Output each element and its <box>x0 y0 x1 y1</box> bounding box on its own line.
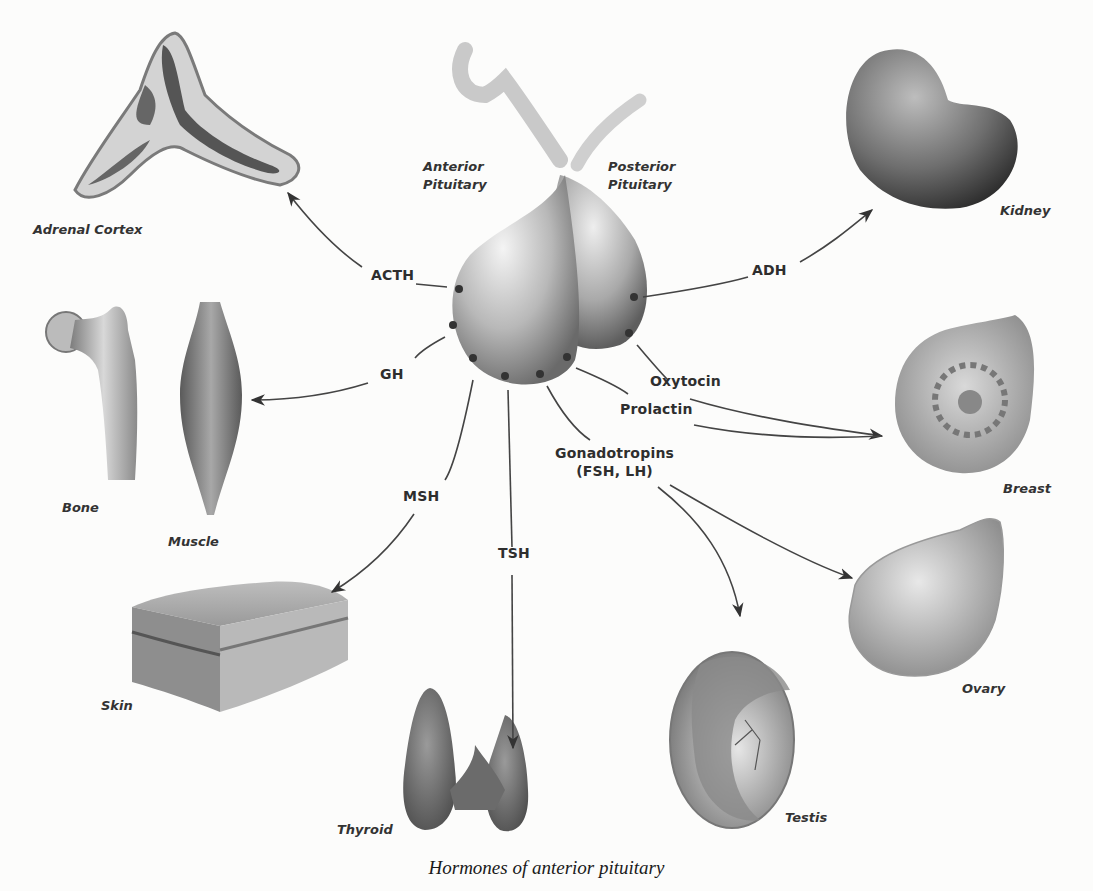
organ-label-thyroid: Thyroid <box>337 822 393 837</box>
hormone-label-tsh: TSH <box>498 545 530 561</box>
organ-label-adrenal-cortex: Adrenal Cortex <box>33 222 143 237</box>
adrenal-cortex-illustration <box>75 33 299 197</box>
hormone-label-oxytocin: Oxytocin <box>650 373 721 389</box>
anterior-pituitary-illustration <box>452 175 579 384</box>
anterior-label-line1: Anterior <box>423 158 487 176</box>
posterior-label-line2: Pituitary <box>608 176 675 194</box>
thyroid-illustration <box>403 688 528 831</box>
anterior-pituitary-label: Anterior Pituitary <box>423 158 487 194</box>
organ-label-ovary: Ovary <box>962 681 1005 696</box>
posterior-pituitary-label: Posterior Pituitary <box>608 158 675 194</box>
hormone-label-acth: ACTH <box>371 267 414 283</box>
hormone-label-adh: ADH <box>752 262 787 278</box>
testis-illustration <box>670 652 794 828</box>
posterior-label-line1: Posterior <box>608 158 675 176</box>
hormone-label-prolactin: Prolactin <box>620 401 693 417</box>
pituitary-stalk <box>460 50 640 165</box>
hormone-label-gh: GH <box>380 366 404 382</box>
organ-label-muscle: Muscle <box>168 534 219 549</box>
kidney-illustration <box>846 49 1018 208</box>
organ-label-testis: Testis <box>785 810 827 825</box>
organ-label-breast: Breast <box>1003 481 1051 496</box>
figure-caption: Hormones of anterior pituitary <box>0 857 1093 879</box>
pituitary-hormones-figure: Anterior Pituitary Posterior Pituitary A… <box>0 0 1093 891</box>
organ-label-skin: Skin <box>101 698 133 713</box>
gonadotropins-line2: (FSH, LH) <box>555 462 674 480</box>
skin-illustration <box>132 582 348 712</box>
diagram-illustration <box>0 0 1093 891</box>
breast-illustration <box>895 315 1034 473</box>
muscle-illustration <box>180 302 242 515</box>
hormone-label-gonadotropins: Gonadotropins (FSH, LH) <box>555 444 674 480</box>
anterior-label-line2: Pituitary <box>423 176 487 194</box>
organ-label-bone: Bone <box>62 500 99 515</box>
bone-illustration <box>46 307 137 480</box>
organ-label-kidney: Kidney <box>1000 203 1050 218</box>
gonadotropins-line1: Gonadotropins <box>555 444 674 462</box>
ovary-illustration <box>849 519 1003 676</box>
hormone-label-msh: MSH <box>403 488 439 504</box>
